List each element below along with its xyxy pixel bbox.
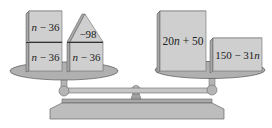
block-label-pre: 20 bbox=[163, 35, 175, 47]
right-block-tall: 20n + 50 bbox=[157, 11, 206, 73]
triangle-label: −98 bbox=[79, 28, 97, 40]
svg-text:n − 36: n − 36 bbox=[31, 21, 60, 33]
svg-text:20n + 50: 20n + 50 bbox=[163, 35, 204, 47]
block-label-rest: − 36 bbox=[78, 51, 101, 63]
block-label-rest: − 36 bbox=[37, 51, 60, 63]
scale-base bbox=[50, 99, 224, 119]
block-label-pre: 150 − 31 bbox=[215, 49, 254, 61]
balance-scale-diagram: n − 36 n − 36 −98 n − 36 20n + 50 bbox=[0, 0, 272, 128]
svg-text:n − 36: n − 36 bbox=[31, 51, 60, 63]
svg-text:150 − 31n: 150 − 31n bbox=[215, 49, 260, 61]
svg-text:n − 36: n − 36 bbox=[72, 51, 101, 63]
scale-beam bbox=[64, 88, 212, 93]
right-block-short: 150 − 31n bbox=[210, 38, 262, 73]
right-pan-support bbox=[207, 76, 217, 95]
left-block-bottom-left: n − 36 bbox=[26, 42, 62, 72]
block-label-post: + 50 bbox=[180, 35, 204, 47]
left-block-bottom-right: n − 36 bbox=[67, 42, 103, 72]
left-pan-support bbox=[59, 78, 69, 96]
left-triangle-weight: −98 bbox=[67, 14, 103, 42]
left-block-top: n − 36 bbox=[26, 11, 62, 43]
block-label-var: n bbox=[254, 49, 260, 61]
block-label-rest: − 36 bbox=[37, 21, 60, 33]
